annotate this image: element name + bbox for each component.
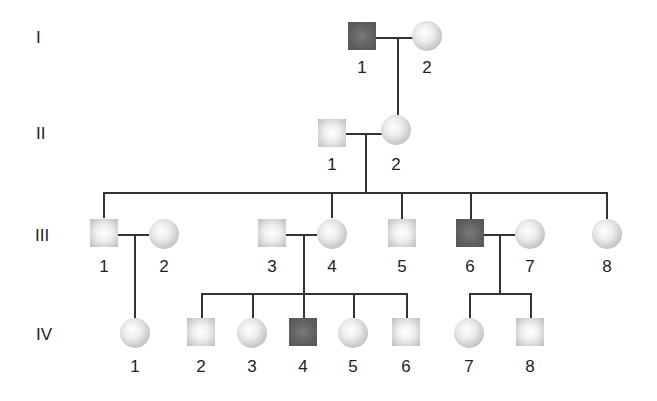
descent-line-iii-3-4 — [303, 234, 305, 318]
id-label: 5 — [338, 357, 368, 377]
id-label: 1 — [89, 257, 119, 277]
female-symbol-iv-7 — [454, 318, 484, 348]
generation-label-ii: II — [36, 124, 45, 144]
id-label: 4 — [288, 357, 318, 377]
descent-line-iii-6-7 — [499, 234, 501, 294]
descent-line-ii — [365, 133, 367, 193]
female-symbol-i-2 — [412, 21, 442, 51]
drop-line — [606, 192, 608, 219]
drop-line — [469, 293, 471, 318]
female-symbol-iii-8 — [592, 219, 622, 249]
sibship-line-iv-a — [201, 293, 407, 295]
id-label: 1 — [120, 357, 150, 377]
id-label: 7 — [454, 357, 484, 377]
id-label: 2 — [149, 257, 179, 277]
female-symbol-iii-4 — [317, 219, 347, 249]
drop-line — [331, 192, 333, 218]
male-affected-symbol-i-1 — [348, 22, 376, 50]
drop-line — [252, 293, 254, 318]
id-label: 2 — [412, 58, 442, 78]
id-label: 8 — [515, 357, 545, 377]
mating-line-i — [376, 37, 413, 39]
id-label: 2 — [381, 155, 411, 175]
sibship-line-iv-b — [469, 293, 531, 295]
female-symbol-iv-5 — [338, 318, 368, 348]
drop-line — [530, 293, 532, 318]
drop-line — [103, 192, 105, 218]
female-symbol-iii-2 — [149, 219, 179, 249]
female-symbol-ii-2 — [381, 115, 411, 145]
drop-line — [353, 293, 355, 318]
id-label: 6 — [391, 357, 421, 377]
generation-label-i: I — [36, 28, 41, 48]
sibship-line-iii — [103, 192, 608, 194]
id-label: 1 — [317, 155, 347, 175]
male-symbol-iii-1 — [90, 219, 118, 247]
drop-line — [406, 293, 408, 318]
drop-line — [470, 192, 472, 219]
id-label: 7 — [515, 257, 545, 277]
descent-line-i — [397, 37, 399, 115]
drop-line — [201, 293, 203, 318]
male-affected-symbol-iv-4 — [289, 318, 317, 346]
male-symbol-iii-5 — [388, 219, 416, 247]
generation-label-iv: IV — [36, 325, 52, 345]
female-symbol-iv-1 — [120, 318, 150, 348]
id-label: 2 — [186, 357, 216, 377]
id-label: 3 — [237, 357, 267, 377]
id-label: 6 — [455, 257, 485, 277]
male-affected-symbol-iii-6 — [456, 219, 484, 247]
drop-line — [401, 192, 403, 219]
generation-label-iii: III — [35, 226, 49, 246]
male-symbol-iv-6 — [392, 318, 420, 346]
male-symbol-iv-2 — [187, 318, 215, 346]
id-label: 8 — [592, 257, 622, 277]
id-label: 5 — [387, 257, 417, 277]
male-symbol-iii-3 — [258, 219, 286, 247]
id-label: 1 — [347, 58, 377, 78]
male-symbol-ii-1 — [318, 119, 346, 147]
mating-line-iii-3-4 — [286, 234, 318, 236]
id-label: 3 — [257, 257, 287, 277]
female-symbol-iii-7 — [515, 219, 545, 249]
male-symbol-iv-8 — [516, 318, 544, 346]
female-symbol-iv-3 — [237, 318, 267, 348]
id-label: 4 — [317, 257, 347, 277]
mating-line-ii — [346, 133, 382, 135]
descent-line-iii-1-2 — [134, 234, 136, 318]
